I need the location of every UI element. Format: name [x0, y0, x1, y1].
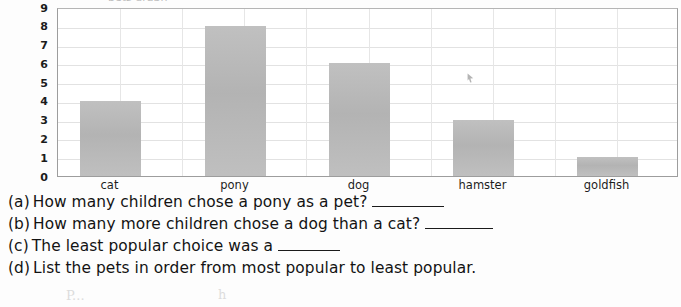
y-axis-tick-label: 4 [0, 96, 48, 107]
gridline-vertical [555, 9, 556, 176]
question-label: (d) [8, 259, 30, 277]
answer-blank[interactable] [278, 238, 340, 251]
question-label: (a) [8, 193, 30, 211]
y-axis-tick-label: 5 [0, 78, 48, 89]
bar-dog [329, 63, 390, 176]
question-label: (c) [8, 237, 29, 255]
worksheet-page: pets graph 0123456789 catponydoghamsterg… [0, 0, 681, 307]
question-item: (b)How many more children chose a dog th… [8, 213, 676, 235]
pencil-mark-2: h [218, 287, 226, 302]
gridline-vertical [182, 9, 183, 176]
gridline-horizontal [58, 28, 677, 29]
answer-blank[interactable] [372, 194, 444, 207]
gridline-vertical [306, 9, 307, 176]
question-item: (c)The least popular choice was a [8, 235, 676, 257]
answer-blank[interactable] [425, 216, 493, 229]
y-axis-tick-label: 6 [0, 59, 48, 70]
bar-chart: pets graph 0123456789 catponydoghamsterg… [0, 0, 681, 196]
cursor-arrow-icon [467, 73, 474, 83]
x-axis-label-pony: pony [182, 178, 287, 192]
bar-goldfish [577, 157, 638, 176]
question-label: (b) [8, 215, 30, 233]
bar-pony [205, 26, 266, 176]
x-axis-label-cat: cat [57, 178, 162, 192]
y-axis-tick-label: 1 [0, 153, 48, 164]
gridline-vertical [431, 9, 432, 176]
x-axis-label-hamster: hamster [430, 178, 535, 192]
pencil-mark-1: P... [66, 288, 85, 303]
question-text: The least popular choice was a [32, 237, 273, 255]
y-axis-tick-label: 7 [0, 40, 48, 51]
question-list: (a)How many children chose a pony as a p… [8, 191, 676, 279]
x-axis-label-dog: dog [306, 178, 411, 192]
question-text: List the pets in order from most popular… [33, 259, 476, 277]
question-text: How many children chose a pony as a pet? [33, 193, 368, 211]
question-text: How many more children chose a dog than … [33, 215, 420, 233]
y-axis-tick-label: 0 [0, 172, 48, 183]
question-item: (d)List the pets in order from most popu… [8, 257, 676, 279]
plot-area [57, 8, 678, 177]
gridline-horizontal [58, 47, 677, 48]
y-axis-tick-label: 8 [0, 21, 48, 32]
x-axis-label-goldfish: goldfish [554, 178, 659, 192]
chart-title-cropped: pets graph [108, 0, 258, 1]
bar-cat [80, 101, 141, 176]
y-axis-tick-label: 2 [0, 134, 48, 145]
y-axis-tick-label: 9 [0, 3, 48, 14]
question-item: (a)How many children chose a pony as a p… [8, 191, 676, 213]
gridline-vertical [617, 9, 618, 176]
y-axis-tick-label: 3 [0, 115, 48, 126]
bar-hamster [453, 120, 514, 176]
